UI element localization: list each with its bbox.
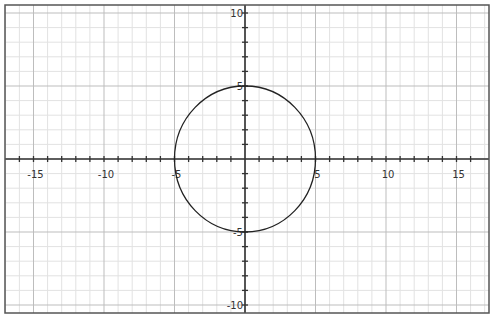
y-tick-label: -10 bbox=[227, 300, 243, 311]
x-tick-label: -10 bbox=[98, 169, 114, 180]
graph-plot[interactable]: -15-10-551015105-5-10 bbox=[0, 0, 490, 319]
x-tick-label: 15 bbox=[452, 169, 465, 180]
x-tick-label: 5 bbox=[314, 169, 320, 180]
y-tick-label: 10 bbox=[230, 8, 243, 19]
x-tick-label: 10 bbox=[382, 169, 395, 180]
x-tick-label: -15 bbox=[27, 169, 43, 180]
